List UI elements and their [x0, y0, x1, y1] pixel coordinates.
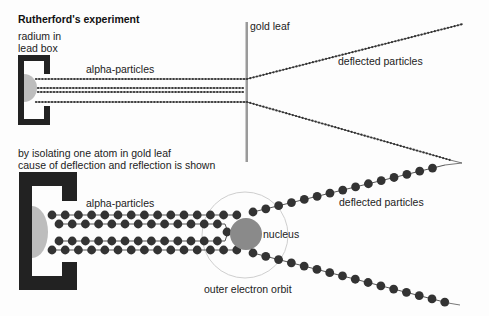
top-deflected-down-particle [269, 107, 271, 109]
top-beam-2-particle [50, 87, 52, 89]
bottom-beam-3-particle [160, 237, 169, 246]
top-deflected-up-particle [292, 66, 294, 68]
top-deflected-up-particle [444, 28, 446, 30]
top-beam-4-particle [147, 101, 149, 103]
bottom-beam-1-particle [74, 211, 83, 220]
top-beam-4-particle [137, 101, 139, 103]
top-deflected-down-particle [275, 109, 277, 111]
top-beam-3-particle [149, 91, 151, 93]
top-deflected-up-particle [279, 70, 281, 72]
bottom-beam-1-particle [166, 211, 175, 220]
bottom-beam-1-particle [193, 211, 202, 220]
top-deflected-down-particle [328, 124, 330, 126]
top-beam-1-particle [224, 78, 226, 80]
top-beam-3-particle [191, 91, 193, 93]
top-beam-3-particle [184, 91, 186, 93]
top-beam-4-particle [230, 101, 232, 103]
top-beam-3-particle [168, 91, 170, 93]
bottom-beam-4-particle [48, 246, 57, 255]
top-beam-2-particle [104, 87, 106, 89]
top-beam-2-particle [79, 87, 81, 89]
top-beam-1-particle [134, 78, 136, 80]
top-deflected-down-particle [360, 134, 362, 136]
top-beam-2-particle [75, 87, 77, 89]
top-deflected-up-particle [411, 36, 413, 38]
top-beam-1-particle [73, 78, 75, 80]
top-beam-label: alpha-particles [86, 63, 154, 75]
top-beam-4-particle [157, 101, 159, 103]
top-beam-3-particle [200, 91, 202, 93]
bottom-deflected-up-particle [402, 170, 411, 179]
top-deflected-up-particle [414, 35, 416, 37]
top-deflected-down-particle [347, 130, 349, 132]
bottom-deflected-up-particle [428, 164, 437, 173]
top-beam-2-particle [85, 87, 87, 89]
top-beam-4-particle [160, 101, 162, 103]
top-deflected-up-particle [269, 72, 271, 74]
top-deflected-down-particle [396, 144, 398, 146]
top-beam-4-particle [205, 101, 207, 103]
top-beam-1-particle [195, 78, 197, 80]
top-beam-4-particle [173, 101, 175, 103]
top-beam-2-particle [130, 87, 132, 89]
top-deflected-up-particle [266, 73, 268, 75]
top-deflected-down-particle [298, 116, 300, 118]
top-beam-3-particle [127, 91, 129, 93]
top-beam-2-particle [235, 87, 237, 89]
top-beam-1-particle [198, 78, 200, 80]
top-deflected-down-particle [318, 121, 320, 123]
top-beam-1-particle [118, 78, 120, 80]
top-beam-1-particle [160, 78, 162, 80]
bottom-deflected-label: deflected particles [339, 196, 424, 208]
radium-source-top [24, 74, 37, 102]
top-beam-4-particle [38, 101, 40, 103]
top-beam-2-particle [223, 87, 225, 89]
top-deflected-up-particle [391, 41, 393, 43]
bottom-beam-2-particle [173, 220, 182, 229]
top-beam-1-particle [61, 78, 63, 80]
bottom-deflected-down-particle [415, 291, 424, 300]
top-beam-3-particle [47, 91, 49, 93]
top-deflected-up-particle [252, 76, 254, 78]
top-deflected-up-particle [450, 26, 452, 28]
top-deflected-up-particle [437, 29, 439, 31]
top-beam-4-particle [67, 101, 69, 103]
top-beam-2-particle [181, 87, 183, 89]
top-beam-3-particle [66, 91, 68, 93]
top-deflected-up-particle [332, 56, 334, 58]
top-beam-4-particle [176, 101, 178, 103]
top-deflected-up-particle [440, 28, 442, 30]
top-beam-3-particle [146, 91, 148, 93]
top-beam-1-particle [221, 78, 223, 80]
top-beam-1-particle [83, 78, 85, 80]
bottom-deflected-up-particle [377, 176, 386, 185]
top-beam-3-particle [117, 91, 119, 93]
gold-leaf-label: gold leaf [250, 20, 290, 32]
top-beam-4-particle [198, 101, 200, 103]
top-beam-1-particle [150, 78, 152, 80]
top-beam-4-particle [224, 101, 226, 103]
top-deflected-down-particle [266, 107, 268, 109]
bottom-deflected-down-particle [440, 298, 449, 307]
top-beam-3-particle [235, 91, 237, 93]
top-beam-3-particle [75, 91, 77, 93]
top-beam-2-particle [98, 87, 100, 89]
top-beam-4-particle [125, 101, 127, 103]
top-deflected-down-particle [301, 117, 303, 119]
bottom-beam-3-particle [173, 237, 182, 246]
top-beam-3-particle [53, 91, 55, 93]
top-beam-3-particle [37, 91, 39, 93]
top-beam-1-particle [54, 78, 56, 80]
top-beam-2-particle [168, 87, 170, 89]
top-beam-2-particle [59, 87, 61, 89]
bottom-deflected-up-particle [287, 198, 296, 207]
top-beam-1-particle [112, 78, 114, 80]
top-beam-3-particle [56, 91, 58, 93]
top-beam-2-particle [194, 87, 196, 89]
top-beam-2-particle [197, 87, 199, 89]
top-beam-2-particle [82, 87, 84, 89]
top-beam-4-particle [185, 101, 187, 103]
bottom-deflected-down-particle [389, 285, 398, 294]
bottom-beam-1-particle [48, 211, 57, 220]
bottom-beam-1-particle [114, 211, 123, 220]
